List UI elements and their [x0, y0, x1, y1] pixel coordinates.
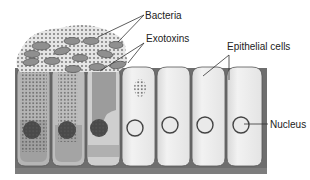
cell-3-affected	[87, 68, 120, 166]
nucleus-healthy	[233, 117, 249, 133]
leader-exotoxins-2	[128, 43, 144, 63]
bacterium	[109, 42, 123, 49]
cell-2-affected	[52, 68, 85, 166]
bacterium	[72, 55, 88, 62]
label-nucleus: Nucleus	[270, 119, 306, 130]
cell-1-affected	[17, 68, 50, 166]
bacterium	[65, 66, 81, 73]
epithelial-exotoxin-diagram: Bacteria Exotoxins Epithelial cells Nucl…	[0, 0, 310, 180]
nucleus-healthy	[197, 117, 213, 133]
nucleus-healthy	[162, 117, 178, 133]
cell-4-partially-affected	[122, 67, 155, 166]
bacterium	[44, 58, 60, 65]
cell-6-healthy	[192, 67, 225, 166]
label-exotoxins: Exotoxins	[146, 33, 189, 44]
bacterium	[64, 38, 80, 45]
epithelial-cells	[17, 67, 262, 166]
leader-bacteria-1	[98, 15, 144, 37]
cell-7-healthy	[227, 67, 262, 166]
label-epithelial-cells: Epithelial cells	[227, 41, 290, 52]
leader-bacteria-2	[118, 15, 144, 42]
label-bacteria: Bacteria	[145, 10, 182, 21]
cell-5-healthy	[157, 67, 190, 166]
bacterium	[32, 42, 50, 50]
nucleus-healthy	[127, 120, 143, 136]
bacterium	[83, 38, 99, 45]
bacterium	[24, 51, 40, 58]
